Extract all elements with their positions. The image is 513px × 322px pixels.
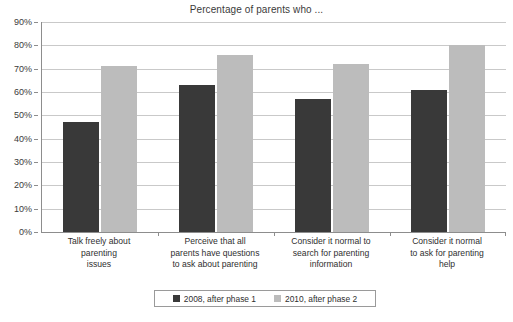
y-axis-tick-label: 10% [14, 204, 32, 214]
x-axis-category-label-line: parenting [41, 248, 157, 260]
legend-label: 2008, after phase 1 [184, 294, 256, 304]
x-axis-category-label-line: information [273, 259, 389, 271]
bar [217, 55, 253, 232]
x-axis-tick-mark [505, 232, 506, 236]
x-axis-category-label-line: to ask about parenting [157, 259, 273, 271]
y-axis-tick-mark [34, 22, 38, 23]
chart-legend: 2008, after phase 12010, after phase 2 [154, 290, 376, 307]
chart-title: Percentage of parents who ... [0, 4, 513, 15]
plot-area [41, 22, 506, 233]
x-axis-category-label-line: Perceive that all [157, 236, 273, 248]
y-axis-tick-mark [34, 45, 38, 46]
y-axis-tick-mark [34, 92, 38, 93]
x-axis-category-labels: Talk freely aboutparentingissuesPerceive… [41, 236, 505, 278]
y-axis-tick-label: 50% [14, 110, 32, 120]
bar [333, 64, 369, 232]
y-axis-tick-mark [34, 115, 38, 116]
y-axis-tick-mark [34, 139, 38, 140]
y-axis-tick-label: 60% [14, 87, 32, 97]
x-axis-category-label: Consider it normalto ask for parentinghe… [389, 236, 505, 271]
y-axis-tick-mark [34, 185, 38, 186]
y-axis: 0%10%20%30%40%50%60%70%80%90% [0, 22, 38, 232]
y-axis-tick-label: 90% [14, 17, 32, 27]
bar [411, 90, 447, 232]
bar-chart: Percentage of parents who ... 0%10%20%30… [0, 0, 513, 322]
y-axis-tick-label: 70% [14, 64, 32, 74]
x-axis-category-label-line: issues [41, 259, 157, 271]
x-axis-category-label-line: help [389, 259, 505, 271]
y-axis-tick-label: 80% [14, 40, 32, 50]
bars-layer [42, 22, 506, 232]
y-axis-tick-mark [34, 232, 38, 233]
x-axis-category-label: Perceive that allparents have questionst… [157, 236, 273, 271]
legend-entry: 2008, after phase 1 [173, 294, 256, 304]
x-axis-category-label-line: search for parenting [273, 248, 389, 260]
x-axis-category-label: Consider it normal tosearch for parentin… [273, 236, 389, 271]
y-axis-tick-mark [34, 162, 38, 163]
x-axis-category-label-line: Consider it normal to [273, 236, 389, 248]
legend-swatch-icon [173, 295, 180, 302]
y-axis-tick-mark [34, 69, 38, 70]
x-axis-category-label-line: parents have questions [157, 248, 273, 260]
legend-entry: 2010, after phase 2 [274, 294, 357, 304]
bar [179, 85, 215, 232]
bar [63, 122, 99, 232]
y-axis-tick-label: 30% [14, 157, 32, 167]
y-axis-tick-label: 40% [14, 134, 32, 144]
bar [101, 66, 137, 232]
x-axis-category-label: Talk freely aboutparentingissues [41, 236, 157, 271]
x-axis-category-label-line: to ask for parenting [389, 248, 505, 260]
bar [295, 99, 331, 232]
y-axis-tick-label: 0% [19, 227, 32, 237]
legend-label: 2010, after phase 2 [285, 294, 357, 304]
x-axis-category-label-line: Consider it normal [389, 236, 505, 248]
x-axis-category-label-line: Talk freely about [41, 236, 157, 248]
y-axis-tick-label: 20% [14, 180, 32, 190]
bar [449, 45, 485, 232]
legend-swatch-icon [274, 295, 281, 302]
y-axis-tick-mark [34, 209, 38, 210]
